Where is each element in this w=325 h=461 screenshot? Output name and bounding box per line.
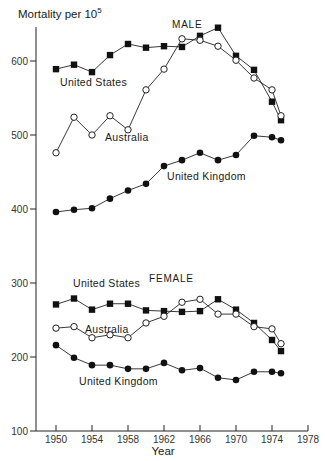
open-circle-marker — [215, 311, 221, 317]
series-female-australia — [53, 296, 284, 347]
filled-circle-marker — [89, 205, 96, 212]
open-circle-marker — [269, 326, 275, 332]
filled-circle-marker — [233, 152, 240, 159]
panel-label-female: FEMALE — [149, 273, 194, 284]
x-tick-label: 1950 — [45, 434, 68, 445]
filled-circle-marker — [143, 366, 150, 373]
open-circle-marker — [71, 114, 77, 120]
square-marker — [269, 337, 275, 343]
open-circle-marker — [197, 37, 203, 43]
filled-circle-marker — [179, 157, 186, 164]
filled-circle-marker — [251, 132, 258, 139]
square-marker — [143, 44, 149, 50]
open-circle-marker — [71, 323, 77, 329]
square-marker — [125, 301, 131, 307]
square-marker — [71, 62, 77, 68]
square-marker — [143, 307, 149, 313]
open-circle-marker — [143, 320, 149, 326]
square-marker — [278, 348, 284, 354]
square-marker — [71, 295, 77, 301]
filled-circle-marker — [89, 362, 96, 369]
x-tick-label: 1978 — [297, 434, 320, 445]
square-marker — [179, 44, 185, 50]
square-marker — [161, 43, 167, 49]
filled-circle-marker — [71, 354, 78, 361]
series-label-female-uk: United Kingdom — [79, 375, 158, 387]
square-marker — [53, 301, 59, 307]
square-marker — [269, 99, 275, 105]
square-marker — [107, 52, 113, 58]
square-marker — [89, 306, 95, 312]
y-tick-label: 400 — [11, 204, 28, 215]
filled-circle-marker — [161, 360, 168, 367]
open-circle-marker — [161, 313, 167, 319]
y-axis-ticks: 100200300400500600 — [11, 56, 36, 437]
filled-circle-marker — [107, 195, 114, 202]
filled-circle-marker — [278, 370, 285, 377]
square-marker — [215, 296, 221, 302]
filled-circle-marker — [269, 134, 276, 141]
open-circle-marker — [233, 311, 239, 317]
filled-circle-marker — [161, 163, 168, 170]
open-circle-marker — [278, 113, 284, 119]
mortality-line-chart: Mortality per 105 100200300400500600 195… — [0, 0, 325, 461]
open-circle-marker — [125, 335, 131, 341]
square-marker — [53, 66, 59, 72]
square-marker — [125, 41, 131, 47]
open-circle-marker — [53, 325, 59, 331]
filled-circle-marker — [125, 366, 132, 373]
open-circle-marker — [269, 87, 275, 93]
series-label-male-us: United States — [60, 76, 127, 88]
filled-circle-marker — [215, 374, 222, 381]
open-circle-marker — [143, 87, 149, 93]
x-tick-label: 1974 — [261, 434, 284, 445]
series-label-male-uk: United Kingdom — [167, 170, 246, 182]
filled-circle-marker — [269, 369, 276, 376]
filled-circle-marker — [107, 362, 114, 369]
open-circle-marker — [233, 57, 239, 63]
filled-circle-marker — [197, 365, 204, 372]
square-marker — [251, 67, 257, 73]
square-marker — [89, 69, 95, 75]
series-male-australia — [53, 36, 284, 156]
filled-circle-marker — [215, 157, 222, 164]
x-axis-ticks: 19501954195819621966197019741978 — [45, 425, 320, 445]
filled-circle-marker — [53, 342, 60, 349]
panel-label-male: MALE — [172, 19, 202, 30]
x-tick-label: 1970 — [225, 434, 248, 445]
square-marker — [215, 25, 221, 31]
open-circle-marker — [179, 36, 185, 42]
square-marker — [179, 309, 185, 315]
open-circle-marker — [215, 43, 221, 49]
open-circle-marker — [89, 335, 95, 341]
filled-circle-marker — [143, 181, 150, 188]
filled-circle-marker — [125, 187, 132, 194]
open-circle-marker — [89, 132, 95, 138]
y-tick-label: 100 — [11, 426, 28, 437]
open-circle-marker — [197, 296, 203, 302]
y-tick-label: 500 — [11, 130, 28, 141]
open-circle-marker — [251, 75, 257, 81]
series-label-male-australia: Australia — [105, 131, 149, 143]
x-axis-title: Year — [151, 445, 174, 457]
open-circle-marker — [278, 340, 284, 346]
open-circle-marker — [107, 113, 113, 119]
y-tick-label: 600 — [11, 56, 28, 67]
filled-circle-marker — [251, 369, 258, 376]
filled-circle-marker — [71, 206, 78, 213]
open-circle-marker — [179, 299, 185, 305]
filled-circle-marker — [179, 367, 186, 374]
open-circle-marker — [161, 66, 167, 72]
series-label-female-australia: Australia — [85, 323, 129, 335]
x-tick-label: 1966 — [189, 434, 212, 445]
square-marker — [107, 301, 113, 307]
x-tick-label: 1954 — [81, 434, 104, 445]
x-tick-label: 1958 — [117, 434, 140, 445]
square-marker — [197, 308, 203, 314]
open-circle-marker — [251, 323, 257, 329]
series-label-female-us: United States — [73, 277, 140, 289]
open-circle-marker — [53, 150, 59, 156]
y-tick-label: 300 — [11, 278, 28, 289]
x-tick-label: 1962 — [153, 434, 176, 445]
filled-circle-marker — [278, 137, 285, 144]
